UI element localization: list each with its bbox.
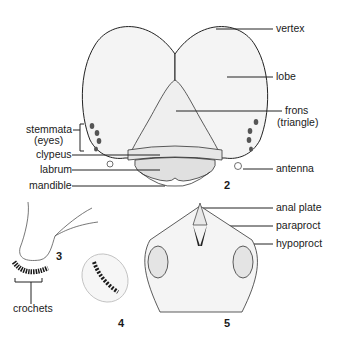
label-frons: frons <box>285 105 308 116</box>
label-frons-sub: (triangle) <box>277 117 318 128</box>
label-hypoproct: hypoproct <box>276 238 322 249</box>
label-mandible: mandible <box>29 180 72 191</box>
label-lobe: lobe <box>276 71 296 82</box>
label-labrum: labrum <box>40 164 72 175</box>
label-paraproct: paraproct <box>276 220 320 231</box>
panel-number-2: 2 <box>224 179 230 191</box>
label-vertex: vertex <box>276 23 305 34</box>
label-stemmata-sub: (eyes) <box>34 135 63 146</box>
label-anal-plate: anal plate <box>276 202 322 213</box>
panel-number-4: 4 <box>118 317 124 329</box>
panel-number-3: 3 <box>56 250 62 262</box>
label-clypeus: clypeus <box>36 149 72 160</box>
label-crochets: crochets <box>13 303 53 314</box>
label-antenna: antenna <box>276 163 314 174</box>
larva-anatomy-figure: vertex lobe frons (triangle) stemmata (e… <box>0 0 337 341</box>
panel-number-5: 5 <box>224 317 230 329</box>
